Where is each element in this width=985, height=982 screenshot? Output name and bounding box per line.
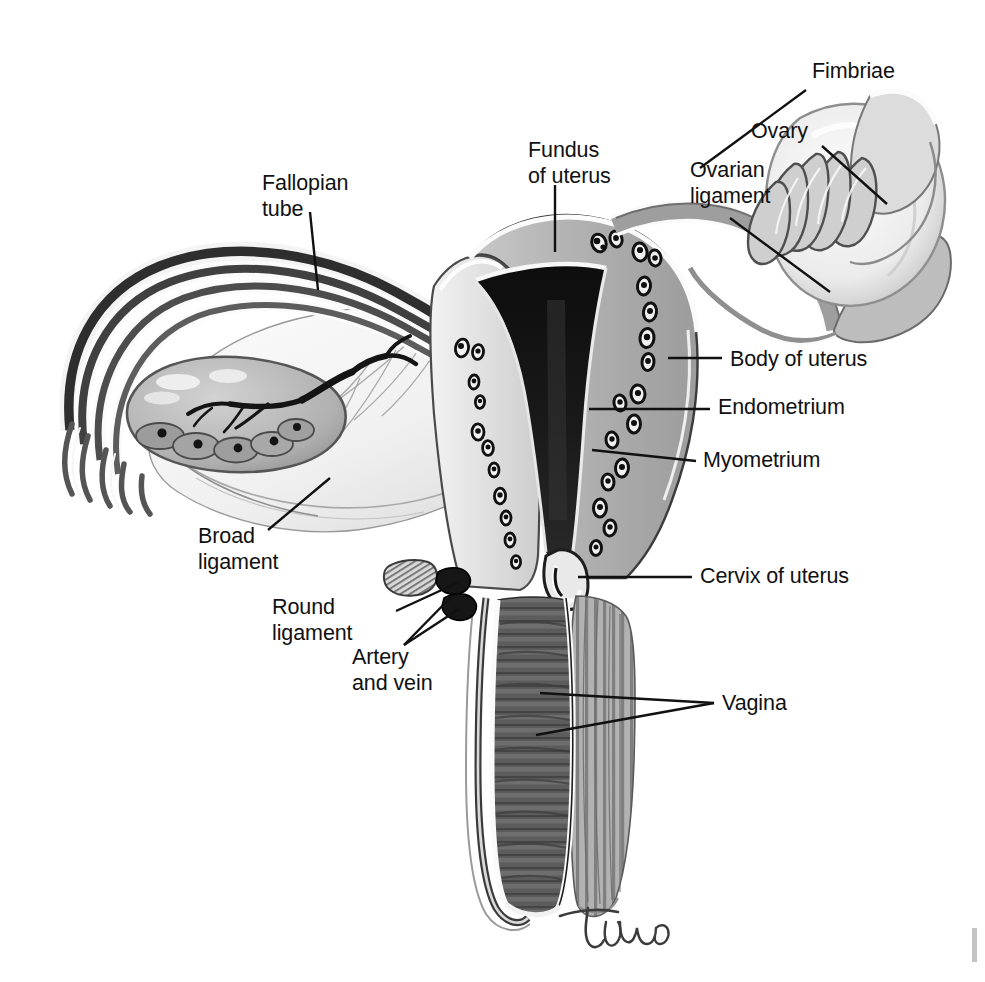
label-line: ligament xyxy=(690,184,771,208)
label-fimbriae: Fimbriae xyxy=(812,59,895,83)
label-line: Endometrium xyxy=(718,395,845,419)
label-body-of-uterus: Body of uterus xyxy=(730,347,867,371)
label-line: Ovary xyxy=(751,119,808,143)
label-line: Artery xyxy=(352,645,409,669)
label-line: Vagina xyxy=(722,691,787,715)
label-line: of uterus xyxy=(528,164,611,188)
label-endometrium: Endometrium xyxy=(718,395,845,419)
label-vagina: Vagina xyxy=(722,691,787,715)
label-line: and vein xyxy=(352,671,433,695)
label-ovary: Ovary xyxy=(751,119,808,143)
anatomical-figure: FimbriaeOvaryOvarianligamentFundusof ute… xyxy=(0,0,985,982)
label-myometrium: Myometrium xyxy=(703,448,820,472)
label-line: Broad xyxy=(198,524,255,548)
label-line: Fundus xyxy=(528,138,599,162)
label-cervix-of-uterus: Cervix of uterus xyxy=(700,564,849,588)
label-line: tube xyxy=(262,197,303,221)
edge-mark xyxy=(972,928,977,962)
label-line: Cervix of uterus xyxy=(700,564,849,588)
round-ligament-stump xyxy=(384,560,437,596)
anatomy-illustration: FimbriaeOvaryOvarianligamentFundusof ute… xyxy=(0,0,985,982)
label-line: Fallopian xyxy=(262,171,348,195)
label-line: Ovarian xyxy=(690,158,765,182)
label-line: Round xyxy=(272,595,335,619)
label-line: Fimbriae xyxy=(812,59,895,83)
label-line: Myometrium xyxy=(703,448,820,472)
label-line: ligament xyxy=(198,550,279,574)
label-line: ligament xyxy=(272,621,353,645)
label-line: Body of uterus xyxy=(730,347,867,371)
